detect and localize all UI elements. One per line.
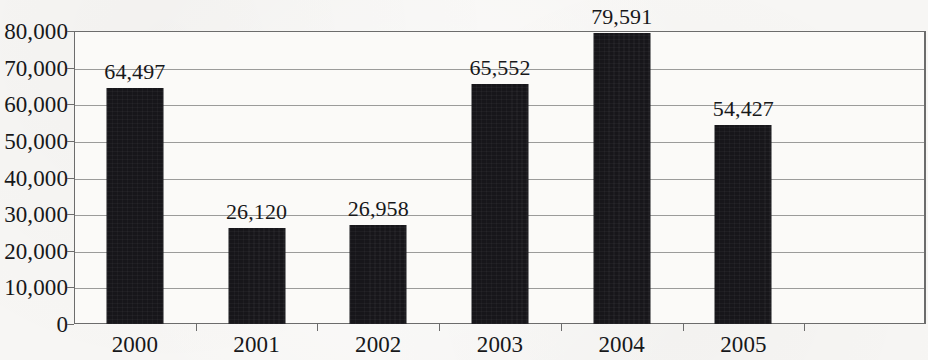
bar-group: 64,497 [74,31,196,324]
x-axis-tick-label: 2001 [196,331,318,359]
y-axis-tick-mark [67,141,74,142]
y-axis-tick-mark [67,324,74,325]
bar [350,225,407,324]
bar-value-label: 26,958 [348,198,409,220]
x-axis-tick-label: 2005 [683,331,805,359]
bar [471,84,528,324]
x-axis-tick-mark [561,324,562,331]
bar [106,88,163,324]
bar-chart: 010,00020,00030,00040,00050,00060,00070,… [0,0,928,360]
y-axis-tick-label: 20,000 [4,239,68,262]
y-axis-tick-label: 80,000 [4,20,68,43]
bar-group: 54,427 [683,31,805,324]
bar-group: 26,120 [196,31,318,324]
x-axis-tick-label: 2003 [439,331,561,359]
y-axis-tick-mark [67,287,74,288]
y-axis-tick-mark [67,214,74,215]
y-axis-tick-mark [67,104,74,105]
y-axis-tick-label: 0 [4,313,68,336]
bar-value-label: 54,427 [713,98,774,120]
x-axis-tick-mark [317,324,318,331]
bar-value-label: 64,497 [104,61,165,83]
bar-value-label: 26,120 [226,201,287,223]
x-axis-tick-mark [196,324,197,331]
x-axis-tick-label: 2000 [74,331,196,359]
bar-series: 64,49726,12026,95865,55279,59154,427 [74,31,926,324]
bar [715,125,772,324]
y-axis-tick-label: 10,000 [4,276,68,299]
y-axis-tick-label: 60,000 [4,93,68,116]
y-axis-tick-mark [67,68,74,69]
bar-value-label: 79,591 [591,6,652,28]
y-axis-tick-label: 40,000 [4,166,68,189]
y-axis-tick-label: 70,000 [4,56,68,79]
bar-group: 79,591 [561,31,683,324]
x-axis-tick-mark [439,324,440,331]
x-axis-tick-label: 2002 [317,331,439,359]
x-axis: 200020012002200320042005 [74,331,926,360]
x-axis-tick-label: 2004 [561,331,683,359]
bar-group: 65,552 [439,31,561,324]
y-axis-tick-label: 30,000 [4,203,68,226]
y-axis-tick-mark [67,31,74,32]
x-axis-tick-mark [683,324,684,331]
y-axis-tick-mark [67,251,74,252]
bar [228,228,285,324]
y-axis-tick-mark [67,178,74,179]
bar-value-label: 65,552 [469,57,530,79]
bar [593,33,650,325]
y-axis: 010,00020,00030,00040,00050,00060,00070,… [0,0,68,360]
x-axis-tick-mark [804,324,805,331]
bar-group: 26,958 [317,31,439,324]
y-axis-tick-label: 50,000 [4,129,68,152]
